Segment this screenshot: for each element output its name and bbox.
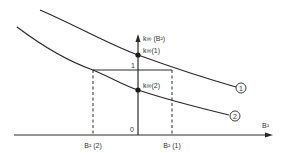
- diagram-canvas: 1 2 k∞ (B²) k∞(1) k∞(2) 1 0 B² B² (2) B²…: [0, 0, 285, 153]
- curve-2-marker: 2: [230, 111, 240, 121]
- curve-1-marker: 1: [236, 83, 246, 93]
- x-axis-arrow-icon: [265, 133, 273, 138]
- point-k1: [135, 52, 140, 57]
- y-axis-label: k∞ (B²): [143, 35, 165, 43]
- curve-1-label: 1: [239, 85, 243, 92]
- k2-label: k∞(2): [143, 82, 160, 90]
- k1-label: k∞(1): [143, 47, 160, 55]
- point-k2: [135, 87, 140, 92]
- b2-2-label: B² (2): [84, 142, 102, 150]
- curve-2: [17, 27, 229, 115]
- origin-label: 0: [130, 126, 134, 133]
- y-axis: [136, 34, 141, 135]
- x-axis-label: B²: [262, 122, 270, 129]
- curve-2-label: 2: [233, 113, 237, 120]
- y-axis-arrow-icon: [136, 34, 141, 42]
- x-axis: [14, 133, 273, 138]
- y-tick-1: 1: [131, 62, 135, 69]
- b2-1-label: B² (1): [163, 142, 181, 150]
